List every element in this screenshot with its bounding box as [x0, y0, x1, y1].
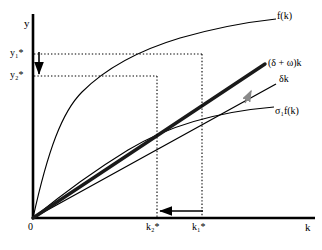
curve-label-delta-k: δk: [279, 74, 289, 84]
x-tick-k2: k₂*: [146, 222, 160, 232]
curve-fk: [33, 19, 276, 218]
curve-label-fk: f(k): [277, 11, 292, 21]
line-delta-k: [33, 84, 276, 218]
x-axis-label: k: [305, 222, 311, 233]
x-tick-k1: k₁*: [192, 222, 206, 232]
y-axis-label: y: [24, 18, 30, 29]
line-delta-plus-omega-k: [33, 64, 265, 218]
diagram-canvas: [0, 0, 322, 250]
curve-label-sigma1-fk: σ₁f(k): [275, 106, 299, 116]
origin-label: 0: [28, 222, 33, 232]
y-tick-y2: y₂*: [10, 70, 24, 80]
y-tick-y1: y₁*: [10, 48, 24, 58]
curve-label-delta-plus-omega-k: (δ + ω)k: [268, 58, 302, 68]
growth-model-diagram: y k 0 y₁* y₂* k₂* k₁* f(k) (δ + ω)k δk σ…: [0, 0, 322, 250]
up-right-arrow: [245, 91, 251, 103]
curve-sigma1-fk: [33, 107, 274, 218]
